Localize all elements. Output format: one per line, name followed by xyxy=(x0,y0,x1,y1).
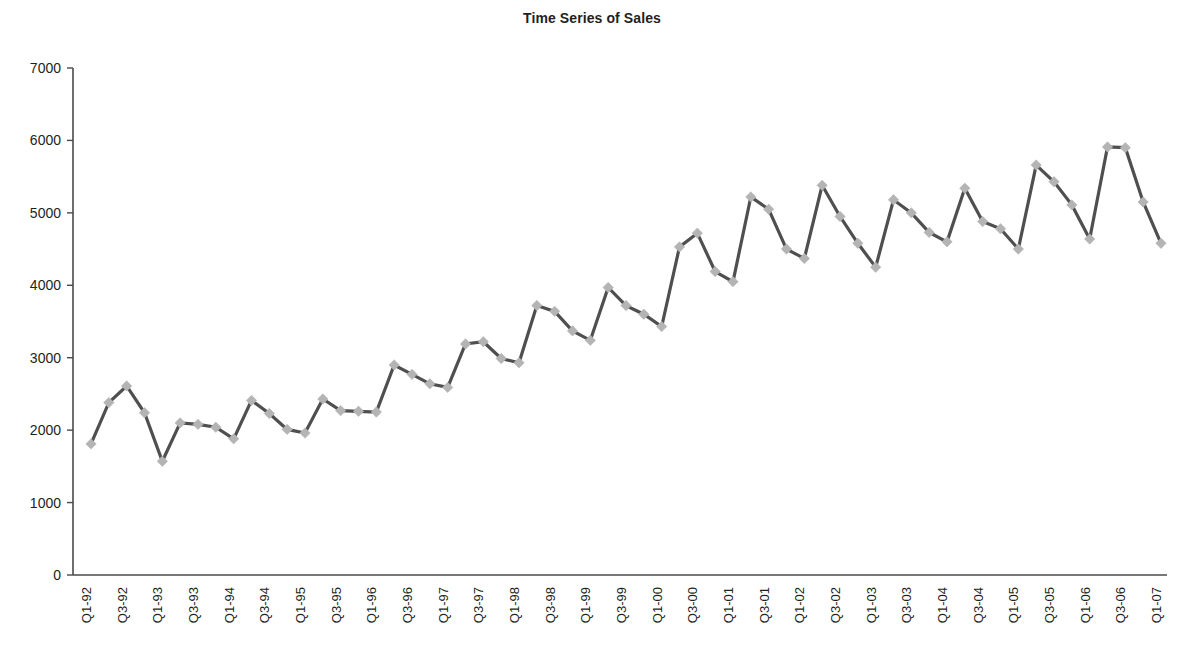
x-tick-label: Q3-95 xyxy=(329,587,344,623)
series-data-point xyxy=(460,339,470,349)
series-data-point xyxy=(157,456,167,466)
series-data-point xyxy=(1138,197,1148,207)
series-data-point xyxy=(1120,142,1130,152)
x-tick-label: Q3-94 xyxy=(257,587,272,623)
x-tick-label: Q1-00 xyxy=(650,587,665,623)
y-tick-label: 2000 xyxy=(30,422,61,438)
x-tick-label: Q1-93 xyxy=(150,587,165,623)
x-tick-label: Q1-95 xyxy=(293,587,308,623)
x-tick-label: Q3-03 xyxy=(899,587,914,623)
x-tick-label: Q1-96 xyxy=(364,587,379,623)
x-tick-label: Q3-06 xyxy=(1113,587,1128,623)
x-tick-label: Q1-04 xyxy=(935,587,950,623)
series-data-point xyxy=(514,358,524,368)
y-tick-label: 0 xyxy=(53,567,61,583)
x-tick-label: Q1-94 xyxy=(222,587,237,623)
x-tick-label: Q3-05 xyxy=(1042,587,1057,623)
x-tick-label: Q1-97 xyxy=(436,587,451,623)
y-tick-label: 5000 xyxy=(30,205,61,221)
x-tick-label: Q1-06 xyxy=(1078,587,1093,623)
x-tick-label: Q3-00 xyxy=(685,587,700,623)
series-data-point xyxy=(353,406,363,416)
x-tick-label: Q1-92 xyxy=(79,587,94,623)
y-tick-label: 6000 xyxy=(30,132,61,148)
x-tick-label: Q1-02 xyxy=(792,587,807,623)
x-tick-label: Q1-01 xyxy=(721,587,736,623)
x-tick-label: Q1-99 xyxy=(578,587,593,623)
series-data-point xyxy=(175,418,185,428)
x-tick-label: Q1-07 xyxy=(1149,587,1164,623)
series-data-point xyxy=(1156,238,1166,248)
x-tick-label: Q3-98 xyxy=(543,587,558,623)
x-tick-label: Q3-96 xyxy=(400,587,415,623)
line-chart-plot: 01000200030004000500060007000 Q1-92Q3-92… xyxy=(0,0,1184,648)
series-data-point xyxy=(532,300,542,310)
series-data-point xyxy=(1102,142,1112,152)
series-data-point xyxy=(193,419,203,429)
y-tick-label: 7000 xyxy=(30,60,61,76)
series-data-point xyxy=(86,439,96,449)
x-tick-label: Q1-05 xyxy=(1006,587,1021,623)
x-tick-label: Q1-98 xyxy=(507,587,522,623)
x-tick-label: Q3-01 xyxy=(757,587,772,623)
y-tick-label: 3000 xyxy=(30,350,61,366)
x-tick-label: Q3-02 xyxy=(828,587,843,623)
y-tick-label: 4000 xyxy=(30,277,61,293)
x-tick-label: Q3-93 xyxy=(186,587,201,623)
x-tick-label: Q3-92 xyxy=(115,587,130,623)
sales-series xyxy=(86,142,1166,467)
y-tick-label: 1000 xyxy=(30,495,61,511)
chart-container: Time Series of Sales 0100020003000400050… xyxy=(0,0,1184,648)
series-data-point xyxy=(371,407,381,417)
series-data-point xyxy=(442,382,452,392)
x-tick-label: Q3-97 xyxy=(471,587,486,623)
y-axis: 01000200030004000500060007000 xyxy=(30,60,73,583)
x-tick-labels: Q1-92Q3-92Q1-93Q3-93Q1-94Q3-94Q1-95Q3-95… xyxy=(79,587,1164,623)
x-tick-label: Q3-04 xyxy=(971,587,986,623)
x-tick-label: Q1-03 xyxy=(864,587,879,623)
x-tick-label: Q3-99 xyxy=(614,587,629,623)
